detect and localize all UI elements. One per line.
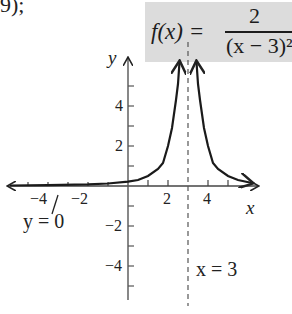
horizontal-asymptote-label: y = 0 bbox=[23, 210, 64, 233]
curve-left-branch bbox=[10, 62, 180, 186]
y-tick-label-4: 4 bbox=[115, 97, 123, 114]
x-axis-label: x bbox=[245, 197, 255, 218]
y-tick-label-neg2: −2 bbox=[105, 217, 122, 234]
x-tick-label-neg2: −2 bbox=[71, 190, 88, 207]
y-tick-label-2: 2 bbox=[115, 137, 123, 154]
curve-right-branch bbox=[197, 62, 253, 183]
x-tick-label-4: 4 bbox=[203, 190, 211, 207]
x-tick-label-2: 2 bbox=[163, 190, 171, 207]
y-axis-label: y bbox=[106, 47, 117, 68]
graph: −4 −2 2 4 4 2 −2 −4 y x y = 0 x = 3 bbox=[0, 0, 292, 314]
x-tick-label-neg4: −4 bbox=[30, 190, 47, 207]
vertical-asymptote-label: x = 3 bbox=[196, 258, 237, 280]
y-tick-label-neg4: −4 bbox=[105, 257, 122, 274]
